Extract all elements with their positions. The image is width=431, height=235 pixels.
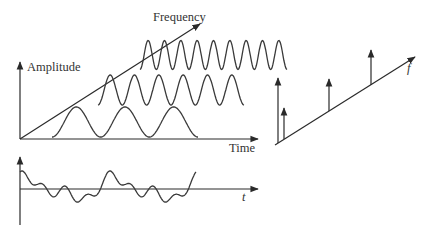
low-frequency-sine [52, 107, 198, 137]
f-axis-label: f [407, 61, 412, 75]
t-axis-label: t [242, 190, 246, 204]
frequency-axis [20, 24, 200, 139]
high-frequency-sine [140, 41, 287, 70]
sine-components [52, 41, 287, 138]
amplitude-label: Amplitude [27, 60, 81, 74]
spectrum-frequency-axis [275, 57, 415, 145]
composite-signal-plot: t [20, 157, 258, 225]
time-label: Time [229, 141, 255, 155]
diagram-canvas: Frequency Amplitude Time t f [0, 0, 431, 235]
frequency-label: Frequency [153, 10, 207, 24]
frequency-spectrum: f [275, 50, 415, 145]
time-domain-axes [20, 24, 258, 139]
composite-signal [20, 171, 196, 202]
mid-frequency-sine [98, 75, 244, 105]
fourier-decomposition-diagram: Frequency Amplitude Time t f [0, 0, 431, 235]
